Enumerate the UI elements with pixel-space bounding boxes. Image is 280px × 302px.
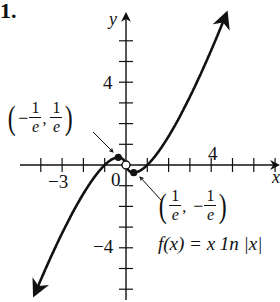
tick-label-x-4: 4 bbox=[208, 144, 218, 163]
tick-label-x-0: 0 bbox=[111, 170, 121, 189]
tick-label-y-4: 4 bbox=[103, 73, 113, 92]
function-label: f(x) = x 1n |x| bbox=[158, 234, 263, 253]
origin-hole-point bbox=[122, 161, 130, 169]
local-max-point bbox=[115, 154, 122, 161]
tick-label-y-neg4: −4 bbox=[93, 237, 113, 256]
annotation-local-min: ( 1e , − 1e ) bbox=[157, 188, 229, 223]
local-min-point bbox=[130, 169, 137, 176]
tick-label-x-neg3: −3 bbox=[48, 172, 68, 191]
annotation-local-max: ( − 1e , 1e ) bbox=[6, 100, 75, 135]
callout-arrow-max bbox=[93, 132, 113, 152]
y-axis-label: y bbox=[109, 10, 117, 28]
function-graph bbox=[0, 0, 280, 302]
x-axis-label: x bbox=[272, 168, 280, 186]
